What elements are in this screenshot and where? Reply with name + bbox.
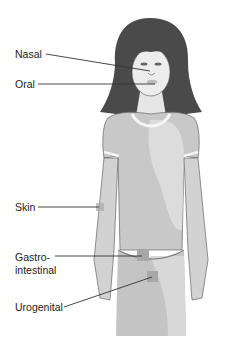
nasal-label: Nasal xyxy=(15,48,42,60)
face xyxy=(132,48,170,96)
oral-label: Oral xyxy=(15,78,35,90)
left-arm xyxy=(94,158,118,300)
left-eye xyxy=(141,62,148,65)
right-arm xyxy=(184,158,208,300)
right-eye xyxy=(155,62,162,65)
gastro-label-line2: intestinal xyxy=(15,264,56,276)
urogenital-marker xyxy=(147,271,158,282)
gastro-marker xyxy=(137,250,149,261)
urogenital-label: Urogenital xyxy=(15,301,63,313)
gastro-label: Gastro- xyxy=(15,251,50,263)
skin-label: Skin xyxy=(15,201,35,213)
mouth xyxy=(147,80,158,84)
